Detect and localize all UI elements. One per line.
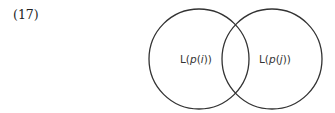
- left-set-label: L(p(i)): [180, 53, 212, 65]
- right-set-label: L(p(j)): [259, 53, 291, 65]
- venn-diagram: L(p(i)) L(p(j)): [0, 0, 335, 113]
